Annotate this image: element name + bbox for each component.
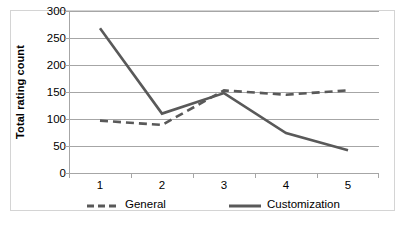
x-axis: 12345: [69, 173, 379, 197]
x-tick-label: 3: [221, 179, 227, 191]
x-tick-label: 5: [345, 179, 351, 191]
dashed-line-swatch: [87, 198, 119, 210]
series-lines: [69, 11, 379, 173]
legend-label: Customization: [267, 198, 340, 210]
y-axis-title: Total rating count: [11, 11, 29, 173]
y-tick-label: 150: [47, 86, 66, 98]
y-axis-tick-labels: 050100150200250300: [29, 11, 69, 173]
x-tick-label: 2: [159, 179, 165, 191]
y-tick-label: 200: [47, 59, 66, 71]
y-tick-label: 250: [47, 32, 66, 44]
x-tick-mark: [255, 174, 256, 178]
x-tick-label: 1: [97, 179, 103, 191]
plot-area: [69, 11, 379, 173]
legend-entry-general[interactable]: General: [87, 195, 166, 212]
legend-label: General: [125, 198, 166, 210]
legend-entry-customization[interactable]: Customization: [229, 195, 340, 212]
chart-container: Total rating count 050100150200250300 12…: [10, 10, 395, 211]
chart-legend: GeneralCustomization: [69, 195, 389, 212]
x-tick-mark: [317, 174, 318, 178]
x-tick-label: 4: [283, 179, 289, 191]
y-tick-label: 100: [47, 113, 66, 125]
y-axis-title-label: Total rating count: [14, 45, 26, 139]
series-line-general: [100, 90, 348, 125]
x-tick-mark: [378, 174, 379, 178]
y-tick-label: 300: [47, 5, 66, 17]
x-tick-mark: [131, 174, 132, 178]
x-tick-mark: [193, 174, 194, 178]
solid-line-swatch: [229, 198, 261, 210]
x-axis-line: [69, 173, 379, 174]
x-tick-mark: [69, 174, 70, 178]
